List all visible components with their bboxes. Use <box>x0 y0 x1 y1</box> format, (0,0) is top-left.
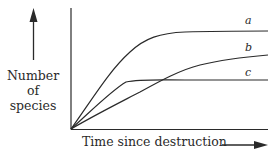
curve-b <box>71 55 268 129</box>
y-direction-arrow <box>30 8 38 60</box>
curve-label-a: a <box>245 14 252 27</box>
x-axis-label: Time since destruction <box>82 134 227 149</box>
curve-label-c: c <box>245 66 251 79</box>
y-axis-label-line-1: Number <box>2 68 64 83</box>
curve-label-b: b <box>245 41 252 54</box>
y-axis-label-line-3: species <box>2 98 64 113</box>
x-direction-arrow <box>222 141 268 149</box>
y-axis-label-line-2: of <box>2 83 64 98</box>
y-axis-label: Number of species <box>2 68 64 113</box>
